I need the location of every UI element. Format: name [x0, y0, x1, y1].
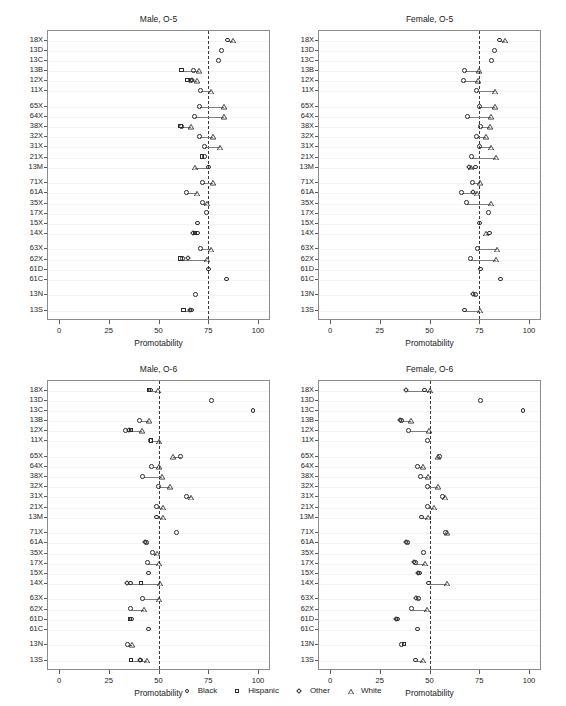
triangle-icon: [502, 38, 508, 43]
circle-icon: [197, 104, 202, 109]
y-axis-label: 11X: [289, 86, 314, 94]
y-axis-tick: [44, 573, 47, 574]
y-axis-tick: [44, 294, 47, 295]
y-axis-label: 11X: [18, 436, 43, 444]
y-axis-tick: [315, 192, 318, 193]
circle-icon: [154, 504, 159, 509]
y-axis-tick: [44, 583, 47, 584]
square-icon: [235, 688, 241, 694]
circle-icon: [209, 398, 214, 403]
y-axis-tick: [44, 233, 47, 234]
x-axis-tick-label: 75: [465, 676, 493, 685]
triangle-icon: [422, 561, 428, 566]
circle-icon: [195, 221, 200, 226]
x-axis-tick: [479, 320, 480, 324]
y-axis-label: 15X: [289, 569, 314, 577]
legend-item: Other: [297, 686, 330, 695]
circle-icon: [470, 180, 475, 185]
x-axis-tick: [479, 670, 480, 674]
x-axis-tick: [430, 320, 431, 324]
y-axis-label: 12X: [18, 426, 43, 434]
y-axis-label: 14X: [289, 579, 314, 587]
y-axis-label: 18X: [289, 386, 314, 394]
y-axis-tick: [44, 126, 47, 127]
y-axis-tick: [315, 157, 318, 158]
y-axis-label: 61D: [18, 265, 43, 273]
gridline: [319, 51, 540, 52]
y-axis-tick: [315, 496, 318, 497]
square-icon: [200, 154, 204, 158]
y-axis-label: 17X: [289, 209, 314, 217]
triangle-icon: [408, 418, 414, 423]
circle-icon: [184, 190, 189, 195]
y-axis-label: 13M: [18, 513, 43, 521]
reference-line: [159, 381, 160, 669]
circle-icon: [185, 689, 190, 694]
y-axis-label: 61C: [289, 625, 314, 633]
circle-icon: [477, 221, 482, 226]
y-axis-tick: [315, 223, 318, 224]
triangle-icon: [188, 495, 194, 500]
gridline: [48, 280, 269, 281]
reference-line: [479, 31, 480, 319]
y-axis-tick: [315, 486, 318, 487]
y-axis-label: 31X: [289, 142, 314, 150]
y-axis-label: 62X: [289, 255, 314, 263]
triangle-icon: [196, 68, 202, 73]
y-axis-label: 13C: [18, 56, 43, 64]
y-axis-label: 38X: [18, 122, 43, 130]
y-axis-label: 61C: [18, 275, 43, 283]
y-axis-label: 13N: [18, 640, 43, 648]
y-axis-label: 13N: [289, 290, 314, 298]
y-axis-label: 17X: [18, 209, 43, 217]
triangle-icon: [160, 515, 166, 520]
triangle-icon: [483, 231, 489, 236]
y-axis-tick: [315, 390, 318, 391]
gridline: [319, 183, 540, 184]
triangle-icon: [442, 495, 448, 500]
gridline: [319, 295, 540, 296]
y-axis-tick: [315, 532, 318, 533]
circle-icon: [474, 134, 479, 139]
y-axis-tick: [44, 410, 47, 411]
y-axis-tick: [315, 269, 318, 270]
triangle-icon: [493, 155, 499, 160]
circle-icon: [224, 277, 229, 282]
legend-label: Hispanic: [248, 687, 279, 696]
x-axis-tick: [109, 320, 110, 324]
x-axis-tick-label: 50: [145, 676, 173, 685]
circle-icon: [198, 88, 203, 93]
y-axis-tick: [315, 50, 318, 51]
gridline: [48, 224, 269, 225]
y-axis-tick: [315, 507, 318, 508]
circle-icon: [521, 408, 526, 413]
triangle-icon: [492, 104, 498, 109]
gridline: [48, 137, 269, 138]
y-axis-label: 38X: [18, 472, 43, 480]
triangle-icon: [204, 201, 210, 206]
triangle-icon: [194, 78, 200, 83]
circle-icon: [474, 88, 479, 93]
gridline: [48, 158, 269, 159]
circle-icon: [204, 210, 209, 215]
y-axis-tick: [44, 106, 47, 107]
circle-icon: [128, 606, 133, 611]
triangle-icon: [221, 104, 227, 109]
gridline: [319, 147, 540, 148]
gridline: [48, 311, 269, 312]
gridline: [319, 204, 540, 205]
y-axis-label: 61D: [289, 265, 314, 273]
reference-line: [208, 31, 209, 319]
y-axis-label: 35X: [289, 549, 314, 557]
gridline: [319, 107, 540, 108]
y-axis-tick: [315, 106, 318, 107]
y-axis-tick: [44, 279, 47, 280]
y-axis-tick: [44, 456, 47, 457]
panel-title: Female, O-6: [318, 364, 541, 374]
triangle-icon: [155, 388, 161, 393]
y-axis-tick: [315, 609, 318, 610]
y-axis-tick: [315, 80, 318, 81]
triangle-icon: [474, 191, 480, 196]
y-axis-tick: [315, 517, 318, 518]
y-axis-label: 13B: [18, 66, 43, 74]
